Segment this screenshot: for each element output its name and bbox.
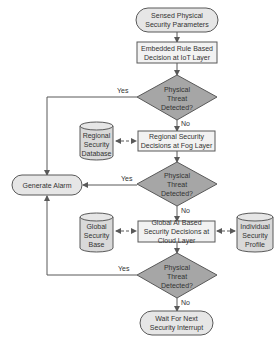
edge-label-no1: No (181, 120, 190, 127)
edge-label-no3: No (181, 299, 190, 306)
alarm-label: Generate Alarm (12, 175, 82, 195)
cloud-decision-label: Global AI Based Security Decisions at Cl… (140, 221, 213, 242)
edge-label-yes3: Yes (118, 265, 129, 272)
edge-label-yes2: Yes (121, 175, 132, 182)
iot-decision-label: Embedded Rule Based Decision at IoT Laye… (140, 42, 214, 63)
threat2-label: Physical Threat Detected? (160, 166, 194, 202)
start-terminal-label: Sensed Physical Security Parameters (142, 8, 212, 32)
individual-profile-label: Individual Security Profile (240, 221, 270, 249)
threat3-label: Physical Threat Detected? (160, 258, 194, 294)
edge-label-no2: No (181, 207, 190, 214)
threat1-label: Physical Threat Detected? (160, 80, 194, 116)
wait-terminal-label: Wait For Next Security Interrupt (144, 311, 209, 335)
edge-label-yes1: Yes (117, 87, 128, 94)
regional-db-label: Regional Security Database (82, 130, 111, 158)
fog-decision-label: Regional Security Decisions at Fog Layer (140, 131, 213, 151)
global-base-label: Global Security Base (82, 221, 111, 249)
